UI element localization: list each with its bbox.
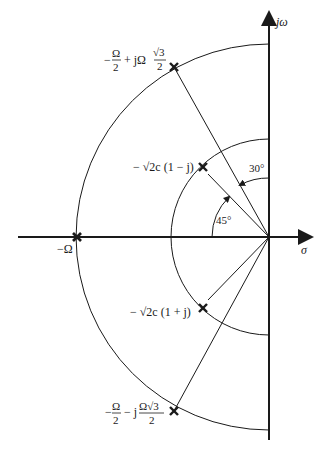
angle-label-45: 45° — [216, 214, 231, 226]
upper-mid-pole-label: − √2c (1 − j) — [133, 160, 194, 174]
sigma-axis-label: σ — [301, 243, 308, 257]
neg-omega-label: −Ω — [57, 242, 73, 256]
svg-text:2: 2 — [113, 61, 119, 73]
radial-line-top — [174, 67, 269, 237]
radial-line-bottom — [174, 237, 269, 411]
pole-marker-lower-mid — [199, 304, 207, 312]
svg-text:2: 2 — [157, 60, 163, 72]
svg-text:Ω√3: Ω√3 — [139, 400, 159, 412]
svg-text:− j: − j — [124, 405, 137, 419]
radial-line-lower-mid — [208, 237, 269, 300]
svg-text:+ jΩ: + jΩ — [124, 53, 146, 67]
svg-text:−: − — [105, 405, 112, 419]
svg-text:√3: √3 — [153, 46, 165, 58]
svg-text:Ω: Ω — [112, 400, 120, 412]
bottom-pole-label: − Ω 2 − j Ω√3 2 — [105, 400, 164, 426]
angle-label-30: 30° — [249, 162, 264, 174]
svg-text:2: 2 — [149, 414, 155, 426]
angle-arc-30 — [240, 178, 269, 185]
s-plane-diagram: jω σ −Ω − Ω 2 + jΩ √3 2 − √2c (1 − j) − … — [0, 0, 334, 456]
top-pole-label: − Ω 2 + jΩ √3 2 — [104, 46, 166, 73]
pole-marker-bottom — [170, 407, 178, 415]
lower-mid-pole-label: − √2c (1 + j) — [130, 305, 191, 319]
svg-text:Ω: Ω — [112, 47, 120, 59]
radial-line-upper-mid — [208, 174, 269, 237]
jw-axis-label: jω — [274, 15, 288, 29]
svg-text:2: 2 — [113, 414, 119, 426]
svg-text:−: − — [104, 53, 111, 67]
